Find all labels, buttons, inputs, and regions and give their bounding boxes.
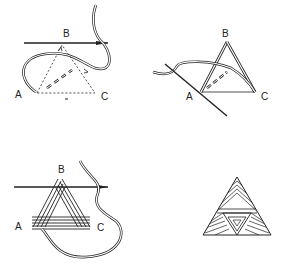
point-label-b: B [63,29,70,39]
point-label-b: B [58,165,65,175]
point-label-a: A [15,222,22,232]
point-label-a: A [15,90,22,100]
needle-icon [165,64,227,116]
panel-step-1: B A C [0,0,141,137]
step-2-illustration [141,0,282,137]
panel-step-3: B A C [0,137,141,274]
finished-triangle-illustration [141,137,282,274]
point-label-c: C [101,92,108,102]
point-label-a: A [186,92,193,102]
point-label-b: B [222,29,229,39]
step-3-illustration [0,137,141,274]
step-1-illustration [0,0,141,137]
point-label-c: C [261,92,268,102]
point-label-c: C [97,223,104,233]
panel-step-2: B A C [141,0,282,137]
panel-step-4 [141,137,282,274]
